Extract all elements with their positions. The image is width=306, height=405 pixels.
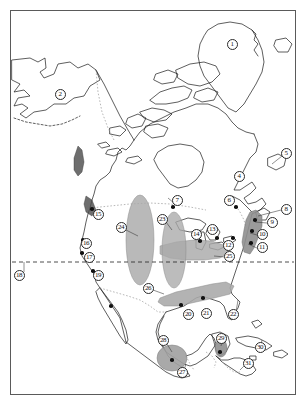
mexico-guatemala-border: [206, 352, 216, 368]
sample-dot: [201, 296, 205, 300]
map-marker-20[interactable]: 20: [183, 309, 194, 320]
map-marker-23[interactable]: 23: [157, 214, 168, 225]
sample-dot: [179, 303, 183, 307]
map-marker-31[interactable]: 31: [243, 358, 254, 369]
map-marker-22[interactable]: 22: [228, 309, 239, 320]
map-marker-5[interactable]: 5: [281, 148, 292, 159]
cuba-outline: [236, 336, 272, 350]
map-marker-9[interactable]: 9: [267, 217, 278, 228]
greenland-outline: [198, 22, 264, 112]
canada-arctic-coast: [134, 104, 254, 140]
sample-dot: [253, 218, 257, 222]
small-island-c: [98, 142, 110, 148]
map-marker-2[interactable]: 2: [55, 89, 66, 100]
hudson-strait-islands: [110, 126, 126, 136]
sample-dot: [198, 239, 202, 243]
leader-26: [153, 290, 164, 294]
aleutians: [14, 116, 80, 126]
arctic-islands-3: [176, 62, 220, 86]
map-marker-26[interactable]: 26: [143, 283, 154, 294]
sample-dot: [215, 236, 219, 240]
usa-canada-border-east: [236, 206, 246, 228]
map-marker-10[interactable]: 10: [257, 229, 268, 240]
map-marker-12[interactable]: 12: [223, 240, 234, 251]
small-island-b: [126, 156, 142, 164]
alaska-outline: [12, 58, 100, 118]
sample-dot: [249, 241, 253, 245]
map-marker-17[interactable]: 17: [84, 252, 95, 263]
map-marker-30[interactable]: 30: [255, 342, 266, 353]
sample-dot: [109, 304, 113, 308]
bahamas: [252, 320, 262, 328]
sample-dot: [171, 205, 175, 209]
sample-dot: [170, 358, 174, 362]
greenland-east-detail: [252, 30, 258, 56]
map-marker-25[interactable]: 25: [224, 251, 235, 262]
map-marker-21[interactable]: 21: [201, 308, 212, 319]
leader-5: [272, 156, 282, 164]
arctic-islands-4: [154, 70, 178, 84]
coastline-group: [12, 22, 292, 378]
map-marker-16[interactable]: 16: [81, 238, 92, 249]
sample-dot: [231, 236, 235, 240]
map-marker-18[interactable]: 18: [14, 270, 25, 281]
iceland: [274, 38, 292, 52]
arctic-islands-1: [150, 86, 192, 104]
map-marker-27[interactable]: 27: [177, 367, 188, 378]
hudson-bay: [154, 144, 204, 188]
usa-mexico-border: [100, 288, 166, 312]
map-marker-11[interactable]: 11: [257, 242, 268, 253]
sample-dot: [234, 205, 238, 209]
map-marker-24[interactable]: 24: [116, 222, 127, 233]
map-marker-1[interactable]: 1: [227, 39, 238, 50]
leader-8: [258, 210, 281, 216]
map-marker-15[interactable]: 15: [93, 209, 104, 220]
small-island-a: [106, 148, 122, 156]
map-marker-19[interactable]: 19: [93, 270, 104, 281]
sample-dot: [250, 229, 254, 233]
sample-dot: [80, 251, 84, 255]
map-marker-14[interactable]: 14: [191, 229, 202, 240]
map-marker-4[interactable]: 4: [234, 171, 245, 182]
baja-california: [96, 288, 128, 344]
distribution-map-figure: 1245678910111213141516171819202122232425…: [0, 0, 306, 405]
map-marker-28[interactable]: 28: [158, 335, 169, 346]
map-marker-13[interactable]: 13: [207, 224, 218, 235]
map-marker-7[interactable]: 7: [172, 195, 183, 206]
range-coast-north-shape: [74, 146, 84, 176]
map-marker-29[interactable]: 29: [216, 333, 227, 344]
map-marker-8[interactable]: 8: [281, 204, 292, 215]
map-marker-6[interactable]: 6: [224, 195, 235, 206]
range-24-shape: [126, 195, 154, 285]
alaska-panhandle: [96, 70, 134, 140]
sample-dot: [218, 350, 222, 354]
hispaniola: [274, 350, 288, 358]
